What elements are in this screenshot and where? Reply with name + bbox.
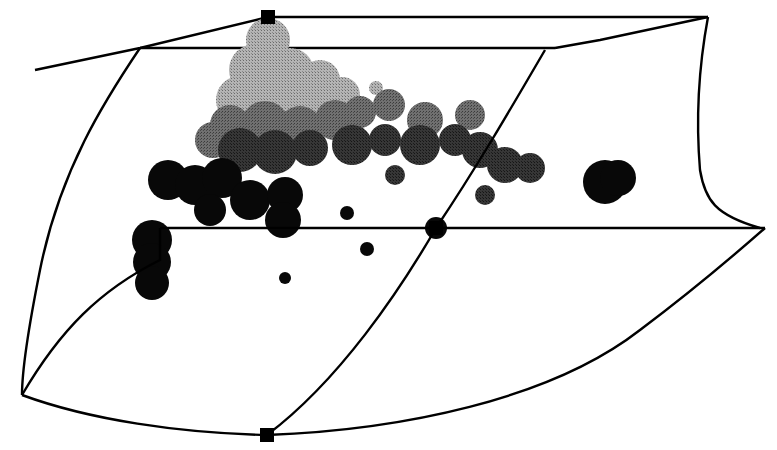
3d-scatter-figure <box>0 0 777 450</box>
wireframe-edge <box>22 48 140 395</box>
wireframe-edge <box>698 17 760 228</box>
data-point <box>515 153 545 183</box>
data-point <box>279 272 291 284</box>
wireframe-edge <box>267 228 765 435</box>
data-point <box>600 160 636 196</box>
data-point <box>332 125 372 165</box>
data-point <box>292 130 328 166</box>
data-points <box>132 18 636 300</box>
data-point <box>265 202 301 238</box>
corner-marker <box>261 10 275 24</box>
data-point <box>373 89 405 121</box>
data-point <box>230 180 270 220</box>
data-point <box>360 242 374 256</box>
data-point <box>340 206 354 220</box>
scatter-plot-canvas <box>0 0 777 450</box>
data-point <box>194 194 226 226</box>
wireframe-edge <box>22 395 267 435</box>
wireframe-edge <box>555 17 708 48</box>
data-point <box>385 165 405 185</box>
data-point <box>253 130 297 174</box>
data-point <box>400 125 440 165</box>
wireframe-box <box>22 17 760 395</box>
data-point <box>475 185 495 205</box>
corner-marker <box>260 428 274 442</box>
data-point <box>369 124 401 156</box>
data-point <box>344 96 376 128</box>
corner-marker <box>429 221 443 235</box>
